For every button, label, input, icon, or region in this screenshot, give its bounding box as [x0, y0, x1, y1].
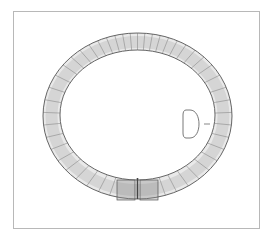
ring-terminals: [117, 178, 158, 200]
bracelet-illustration: [0, 0, 273, 240]
ring-inner-edge: [60, 50, 215, 180]
